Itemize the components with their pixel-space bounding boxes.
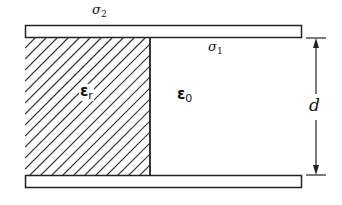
top-plate <box>26 26 302 38</box>
eps-r-label: εr <box>79 84 94 101</box>
eps-r-sub: r <box>88 89 93 102</box>
sigma1-label: σ1 <box>208 40 223 56</box>
sigma2-sub: 2 <box>101 9 107 19</box>
d-label: d <box>309 97 320 114</box>
eps-0-label: ε0 <box>177 87 192 104</box>
capacitor-diagram <box>0 0 342 205</box>
bottom-plate <box>26 176 302 188</box>
dielectric-region <box>25 38 288 180</box>
sigma2-label: σ2 <box>92 3 107 19</box>
sigma1-base: σ <box>208 39 217 54</box>
sigma1-sub: 1 <box>217 46 223 56</box>
eps-0-sub: 0 <box>185 92 192 105</box>
sigma2-base: σ <box>92 2 101 17</box>
